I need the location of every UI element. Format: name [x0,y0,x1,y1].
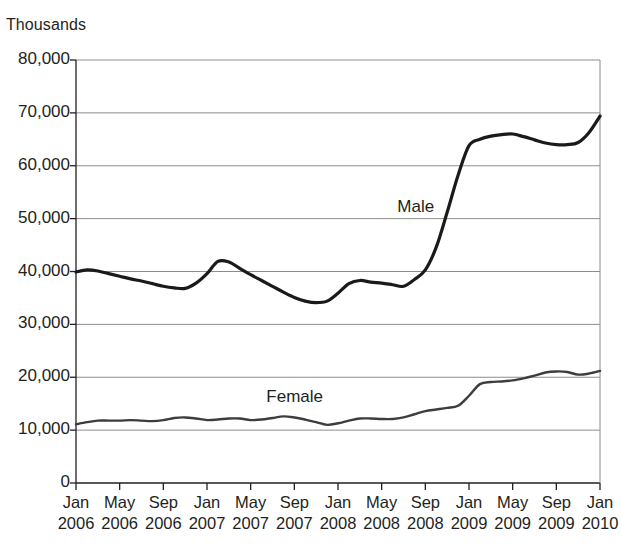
y-axis-tick-label: 0 [2,472,70,492]
y-axis-tick-label: 60,000 [2,155,70,175]
y-axis-tick-labels: 010,00020,00030,00040,00050,00060,00070,… [0,0,70,545]
y-axis-tick-label: 30,000 [2,313,70,333]
x-axis-tick-labels: Jan2006May2006Sep2006Jan2007May2007Sep20… [0,492,622,545]
plot-area [0,0,622,545]
y-axis-tick-label: 10,000 [2,419,70,439]
series-line-male [76,116,600,303]
y-axis-tick-label: 80,000 [2,49,70,69]
series-label-male: Male [397,197,434,217]
series-line-female [76,371,600,425]
gridlines [76,60,600,430]
x-axis-tick-label: Jan2010 [572,492,622,534]
x-tick-year: 2010 [572,513,622,534]
line-chart: Thousands 010,00020,00030,00040,00050,00… [0,0,622,545]
data-series [76,116,600,425]
x-tick-month: Jan [572,492,622,513]
y-axis-tick-label: 20,000 [2,366,70,386]
series-label-female: Female [266,387,323,407]
y-axis-tick-label: 70,000 [2,102,70,122]
y-axis-tick-label: 50,000 [2,208,70,228]
axis-ticks [70,60,600,490]
y-axis-tick-label: 40,000 [2,261,70,281]
